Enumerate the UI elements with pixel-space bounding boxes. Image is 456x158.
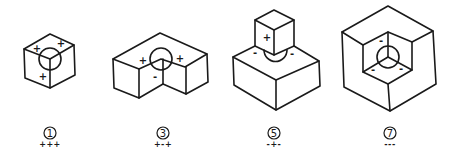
- sign-label: +: [263, 32, 271, 43]
- sign-label: -: [379, 35, 383, 46]
- sign-code: ---: [384, 140, 395, 149]
- sign-code: +++: [39, 140, 61, 149]
- figure-number: 1: [47, 128, 53, 139]
- front-edge: [388, 84, 390, 111]
- junction-diagram: + + + 1 +++ + - + 3 +-+ - +: [0, 0, 456, 158]
- figure-7-concave-corner: - - - 7 ---: [342, 6, 436, 149]
- figure-1-cube: + + + 1 +++: [24, 34, 75, 149]
- sign-label: +: [139, 55, 147, 66]
- sign-label: -: [290, 48, 294, 59]
- figure-3-l-block: + - + 3 +-+: [113, 33, 208, 149]
- cube-top-edges: [24, 45, 74, 59]
- figure-5-cube-on-slab: - + - 5 -+-: [233, 10, 320, 149]
- sign-code: +-+: [154, 140, 172, 149]
- sign-code: -+-: [267, 140, 282, 149]
- sign-label: +: [39, 71, 47, 82]
- sign-label: +: [33, 43, 41, 54]
- sign-label: +: [57, 38, 65, 49]
- sign-label: -: [371, 64, 375, 75]
- top-surface: [113, 33, 207, 69]
- sign-label: -: [153, 71, 157, 82]
- sign-label: -: [253, 47, 257, 58]
- slab-top: [233, 46, 319, 80]
- figure-number: 7: [387, 128, 393, 139]
- concave-face-right: [163, 67, 186, 94]
- sign-label: +: [176, 53, 184, 64]
- figure-number: 3: [160, 128, 166, 139]
- small-cube-top-edges: [255, 20, 294, 30]
- figure-number: 5: [271, 128, 277, 139]
- sign-label: -: [399, 63, 403, 74]
